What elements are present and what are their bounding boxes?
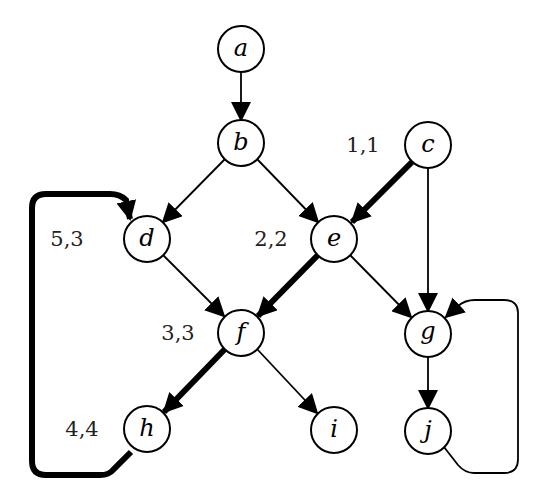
node-i[interactable]: i (311, 407, 357, 453)
annotation-h: 4,4 (65, 417, 98, 441)
annotation-c: 1,1 (346, 133, 379, 157)
node-g[interactable]: g (405, 311, 451, 357)
node-c[interactable]: c (405, 122, 451, 168)
edge-b-d (163, 159, 225, 222)
node-h[interactable]: h (124, 406, 170, 452)
edge-f-i (257, 349, 317, 413)
node-b[interactable]: b (218, 120, 264, 166)
svg-text:c: c (421, 130, 434, 158)
node-e[interactable]: e (311, 216, 357, 262)
edge-e-f (258, 255, 318, 316)
edge-d-f (163, 255, 224, 316)
node-j[interactable]: j (405, 408, 451, 454)
edge-e-g (350, 255, 411, 317)
annotation-e: 2,2 (254, 227, 287, 251)
svg-text:g: g (420, 317, 435, 345)
edge-f-h (164, 349, 225, 412)
svg-text:b: b (233, 128, 248, 156)
annotation-f: 3,3 (161, 321, 194, 345)
node-d[interactable]: d (124, 216, 170, 262)
edge-c-e (352, 162, 412, 222)
edge-b-e (257, 159, 318, 222)
svg-text:i: i (330, 415, 338, 443)
node-a[interactable]: a (218, 26, 264, 72)
svg-text:d: d (139, 224, 154, 252)
annotation-d: 5,3 (50, 227, 83, 251)
graph-canvas: a b c d e f g h i j 1,1 2,2 3,3 4,4 5,3 (0, 0, 546, 503)
svg-text:h: h (139, 414, 154, 442)
edge-j-g (444, 300, 518, 473)
svg-text:e: e (327, 224, 341, 252)
node-f[interactable]: f (218, 310, 264, 356)
svg-text:a: a (234, 34, 248, 62)
